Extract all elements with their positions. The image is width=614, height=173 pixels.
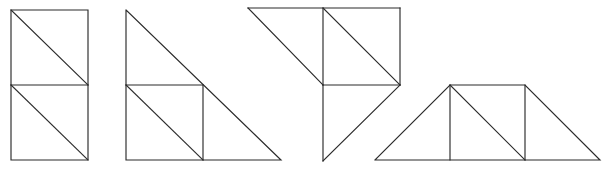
figure-2-right-triangle-with-square [126,10,281,160]
geometry-canvas [0,0,614,173]
figure-1-lower-square-diagonal [11,85,88,160]
figure-sheet [0,0,614,173]
figure-4-trapezoid [375,85,600,160]
figure-3-square-diagonal [323,8,400,85]
figure-3-upper-left-diagonal [248,8,323,85]
figure-2-square-diagonal [126,85,203,160]
figure-4-inner-square-diagonal [450,85,525,160]
figure-1-upper-square-diagonal [11,10,88,85]
figure-1-stacked-squares [11,10,88,160]
figure-3-arrow-composite [248,8,400,161]
figure-3-lower-diagonal [323,85,400,161]
